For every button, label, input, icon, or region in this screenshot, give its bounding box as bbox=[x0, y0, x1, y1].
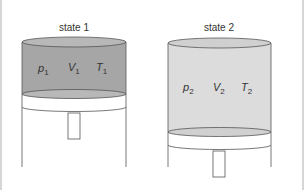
piston-rod-state-1 bbox=[68, 113, 80, 139]
piston-top-state-2 bbox=[168, 128, 271, 137]
state-2-title: state 2 bbox=[204, 22, 234, 33]
state-1-title: state 1 bbox=[59, 22, 89, 33]
cylinder-state-1: state 1 p1 V1 T1 bbox=[22, 22, 126, 167]
piston-cylinder-diagram: state 1 p1 V1 T1 state 2 p2 V2 T2 bbox=[0, 0, 304, 190]
cylinder-top-state-1 bbox=[22, 37, 126, 47]
cylinder-state-2: state 2 p2 V2 T2 bbox=[168, 22, 271, 177]
piston-top-state-1 bbox=[22, 90, 126, 99]
cylinder-top-state-2 bbox=[168, 38, 271, 48]
piston-rod-state-2 bbox=[213, 151, 225, 177]
